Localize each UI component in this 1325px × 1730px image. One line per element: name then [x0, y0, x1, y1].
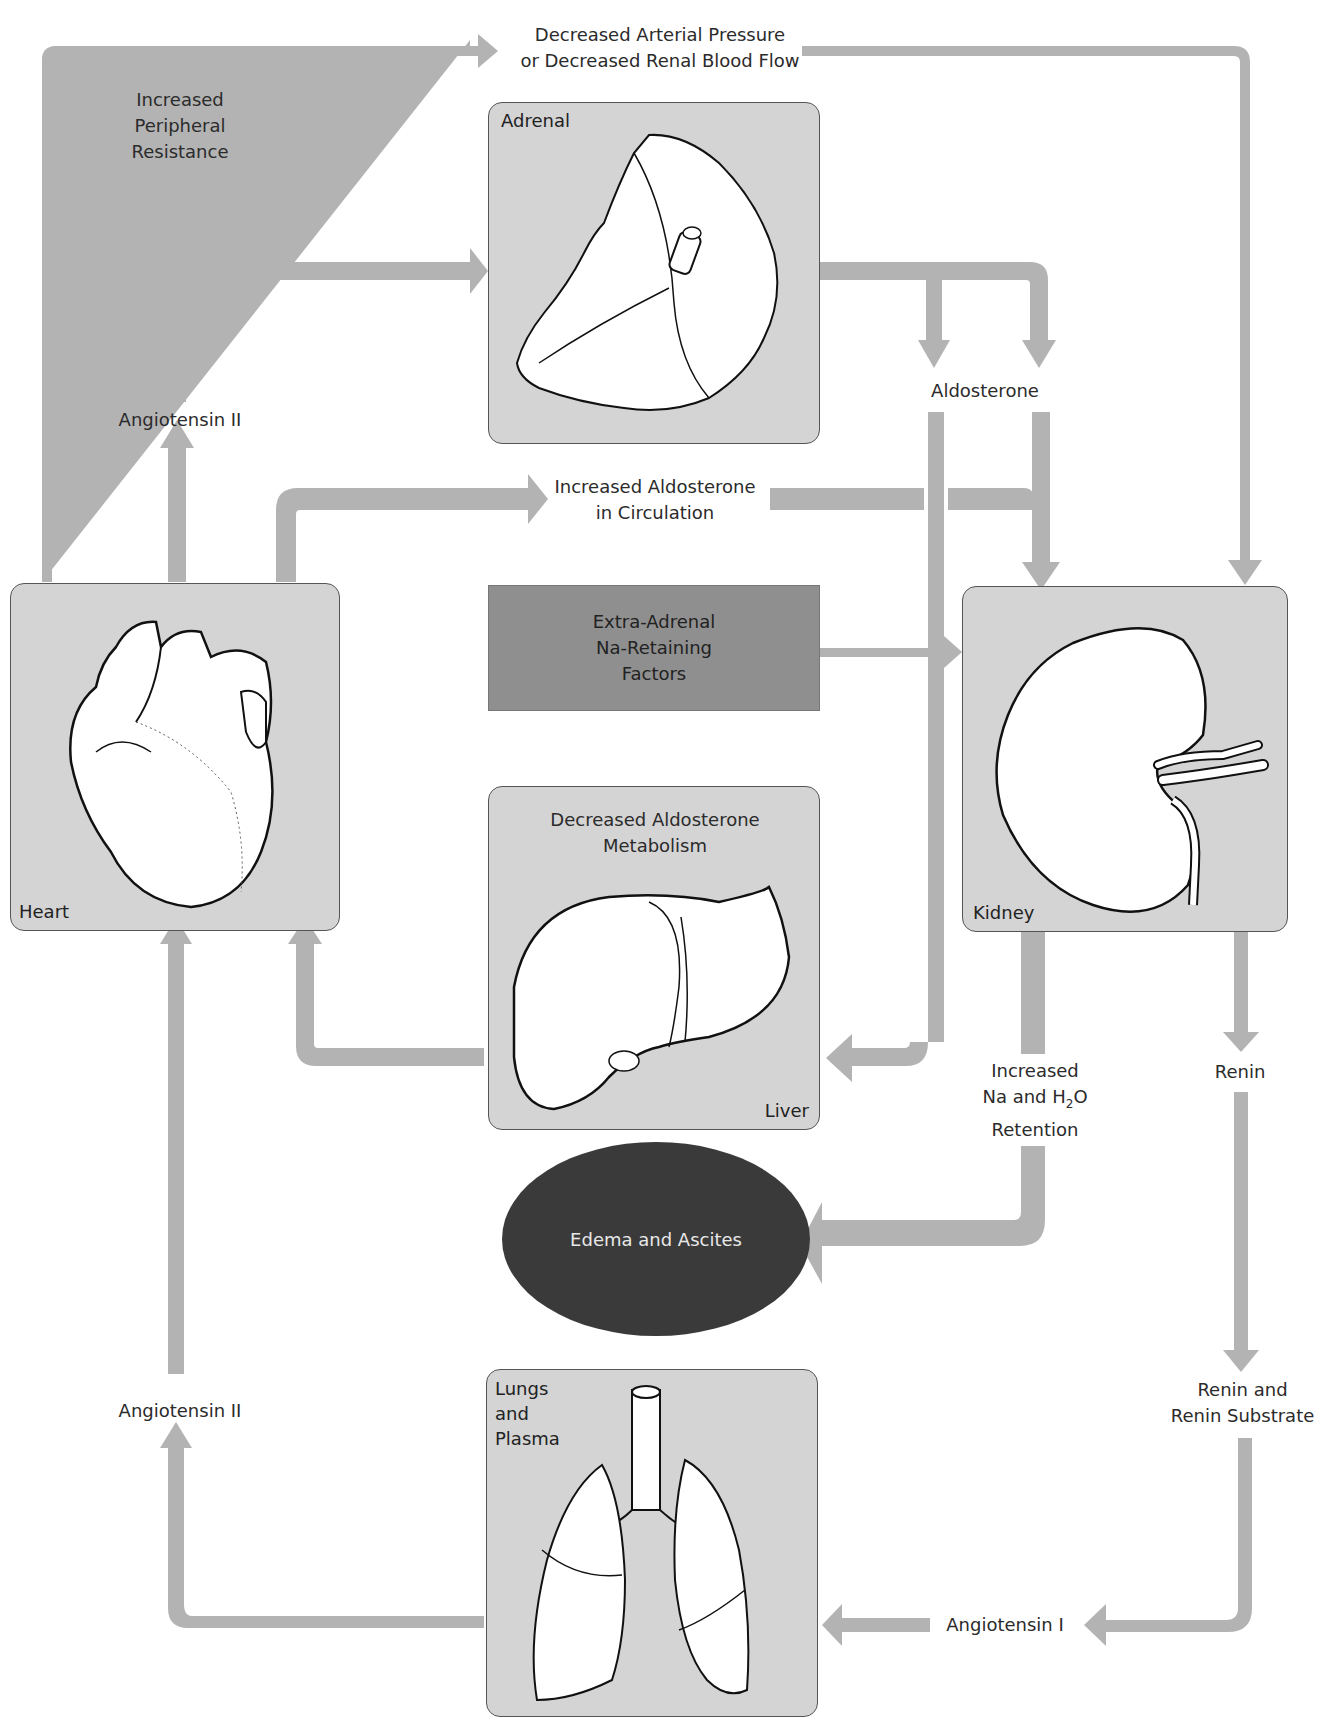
liver-panel: Decreased Aldosterone Metabolism Liver — [488, 786, 820, 1130]
label-part: O — [1073, 1086, 1087, 1107]
renin-label: Renin — [1190, 1059, 1290, 1085]
label-line: Angiotensin I — [930, 1612, 1080, 1638]
box-line: Factors — [622, 661, 686, 687]
adrenal-panel: Adrenal — [488, 102, 820, 444]
adrenal-gland-icon — [509, 123, 809, 433]
label-line: Retention — [960, 1117, 1110, 1143]
label-line: Decreased Arterial Pressure — [500, 22, 820, 48]
label-line: Renin Substrate — [1160, 1403, 1325, 1429]
heart-panel: Heart — [10, 583, 340, 931]
angiotensin-ii-top-label: Angiotensin II — [95, 407, 265, 433]
aldosterone-label: Aldosterone — [910, 378, 1060, 404]
label-line: Angiotensin II — [95, 1398, 265, 1424]
increased-aldosterone-label: Increased Aldosterone in Circulation — [545, 474, 765, 526]
peripheral-resistance-label: Increased Peripheral Resistance — [100, 87, 260, 165]
label-line: or Decreased Renal Blood Flow — [500, 48, 820, 74]
label-line: Increased — [100, 87, 260, 113]
angiotensin-ii-bottom-label: Angiotensin II — [95, 1398, 265, 1424]
caption-line: Decreased Aldosterone — [489, 807, 821, 833]
label-line: Increased — [960, 1058, 1110, 1084]
label-line: Aldosterone — [910, 378, 1060, 404]
label-line: Increased Aldosterone — [545, 474, 765, 500]
label-line: Na and H2O — [960, 1084, 1110, 1117]
liver-organ-icon — [499, 877, 809, 1117]
label-part: Na and H — [982, 1086, 1065, 1107]
box-line: Na-Retaining — [596, 635, 712, 661]
renin-substrate-label: Renin and Renin Substrate — [1160, 1377, 1325, 1429]
label-line: Angiotensin II — [95, 407, 265, 433]
kidney-organ-icon — [973, 605, 1283, 925]
liver-caption: Decreased Aldosterone Metabolism — [489, 807, 821, 859]
na-h2o-retention-label: Increased Na and H2O Retention — [960, 1058, 1110, 1143]
angiotensin-i-label: Angiotensin I — [930, 1612, 1080, 1638]
label-line: Peripheral — [100, 113, 260, 139]
edema-ascites-node: Edema and Ascites — [502, 1142, 810, 1336]
kidney-panel: Kidney — [962, 586, 1288, 932]
lungs-panel: Lungs and Plasma — [486, 1369, 818, 1717]
box-line: Extra-Adrenal — [593, 609, 716, 635]
decreased-pressure-label: Decreased Arterial Pressure or Decreased… — [500, 22, 820, 74]
lungs-organ-icon — [507, 1380, 807, 1710]
label-line: Renin — [1190, 1059, 1290, 1085]
extra-adrenal-factors-box: Extra-Adrenal Na-Retaining Factors — [488, 585, 820, 711]
edema-ascites-label: Edema and Ascites — [570, 1229, 742, 1250]
heart-organ-icon — [41, 602, 321, 922]
label-line: Resistance — [100, 139, 260, 165]
caption-line: Metabolism — [489, 833, 821, 859]
label-line: in Circulation — [545, 500, 765, 526]
label-line: Renin and — [1160, 1377, 1325, 1403]
